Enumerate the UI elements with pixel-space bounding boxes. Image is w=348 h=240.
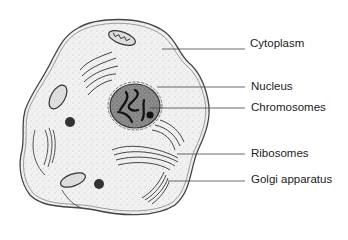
lysosome (94, 179, 104, 189)
label-golgi-apparatus: Golgi apparatus (251, 173, 332, 186)
label-nucleus: Nucleus (251, 80, 293, 93)
label-ribosomes: Ribosomes (251, 147, 309, 160)
nucleus (108, 82, 162, 130)
lysosome (65, 117, 75, 127)
label-chromosomes: Chromosomes (251, 101, 326, 114)
label-cytoplasm: Cytoplasm (250, 37, 304, 50)
